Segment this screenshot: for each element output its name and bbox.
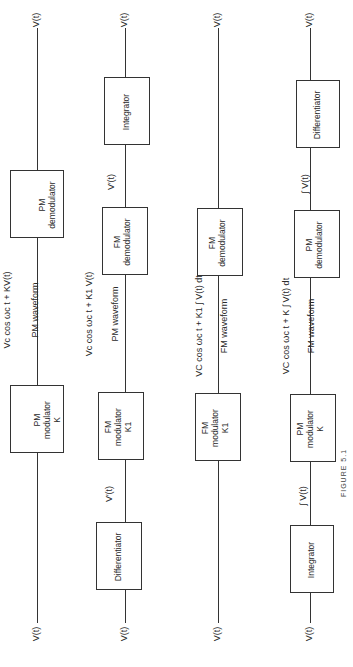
chain-2-output-label: V(t)	[119, 3, 131, 37]
pm-modulator-block: PM modulator K	[290, 394, 336, 462]
block-label: K	[315, 395, 327, 463]
fm-modulator-block: FM modulator K1	[195, 393, 241, 461]
block-label: Differentiator	[113, 523, 125, 591]
block-label: Integrator	[121, 78, 133, 146]
block-label: demodulator	[122, 208, 134, 276]
pm-modulator-block: PM modulator K	[10, 385, 64, 453]
chain-2-derivative-label-out: V′(t)	[106, 162, 118, 202]
integrator-block: Integrator	[290, 525, 334, 593]
fm-demodulator-block: FM demodulator	[197, 208, 243, 276]
chain-4-integral-label: ∫ V(t)	[298, 476, 310, 516]
block-label: demodulator	[47, 171, 59, 239]
chain-1-output-label: V(t)	[31, 3, 43, 37]
figure-caption: FIGURE 5.1	[340, 438, 350, 508]
chain-4-waveform-expression: VC cos ωc t + K ∫ V(t) dt	[281, 251, 293, 401]
fm-modulator-block: FM modulator K1	[98, 392, 144, 460]
block-label: K	[52, 386, 64, 454]
differentiator-block: Differentiator	[96, 522, 142, 590]
block-label: Differentiator	[312, 81, 324, 149]
chain-2-waveform-expression: Vc cos ωc t + K1 V(t)	[84, 254, 96, 374]
block-label: demodulator	[314, 211, 326, 279]
differentiator-block: Differentiator	[296, 80, 340, 148]
block-label: K1	[220, 394, 232, 462]
pm-demodulator-block: PM demodulator	[10, 170, 64, 238]
block-label: Integrator	[306, 526, 318, 594]
integrator-block: Integrator	[104, 77, 150, 145]
block-label: demodulator	[217, 209, 229, 277]
chain-4-output-label: V(t)	[304, 3, 316, 37]
block-label: K1	[123, 393, 135, 461]
block-diagram: V(t) V(t) PM modulator K Vc cos ωc t + K…	[0, 0, 353, 667]
fm-demodulator-block: FM demodulator	[102, 207, 148, 275]
chain-1-waveform-type: PM waveform	[30, 250, 42, 370]
chain-3-output-label: V(t)	[212, 3, 224, 37]
chain-1-waveform-expression: Vc cos ωc t + KV(t)	[2, 250, 14, 370]
chain-2-derivative-label: V′(t)	[104, 474, 116, 514]
pm-demodulator-block: PM demodulator	[294, 210, 340, 278]
chain-4-integral-label-out: ∫ V(t)	[300, 164, 312, 204]
